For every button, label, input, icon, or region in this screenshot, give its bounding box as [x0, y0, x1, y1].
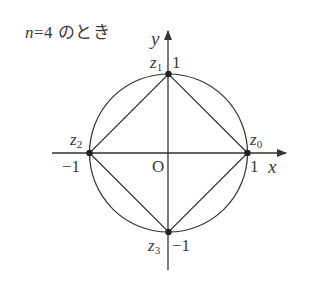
point-z1: [165, 71, 171, 77]
origin-label: O: [152, 158, 164, 175]
point-z3: [165, 229, 171, 235]
label-z2: z2: [70, 131, 82, 150]
x-axis-label: x: [268, 157, 276, 176]
y-axis-label: y: [151, 29, 159, 48]
label-z3: z3: [148, 237, 160, 256]
label-z1: z1: [150, 54, 162, 73]
label-z0: z0: [250, 131, 262, 150]
point-z0: [244, 150, 250, 156]
x-tick-neg1: −1: [62, 158, 80, 175]
y-tick-1: 1: [172, 54, 181, 71]
x-tick-1: 1: [250, 158, 259, 175]
point-z2: [86, 150, 92, 156]
y-tick-neg1: −1: [172, 237, 190, 254]
